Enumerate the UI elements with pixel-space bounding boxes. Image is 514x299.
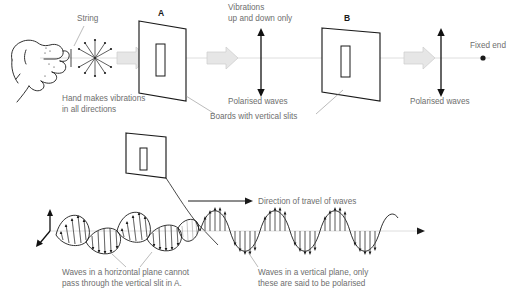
- direction-of-travel-label: Direction of travel of waves: [258, 197, 356, 206]
- fixed-end-dot-icon: [480, 55, 485, 60]
- slit-board-lower-opening: [140, 148, 147, 170]
- board-b-label: B: [344, 13, 350, 23]
- horizontal-caption-line1: Waves in a horizontal plane cannot: [62, 268, 190, 277]
- boards-caption: Boards with vertical slits: [210, 112, 297, 121]
- direction-of-travel-arrow: [188, 198, 253, 205]
- vertical-caption-leader: [248, 252, 258, 267]
- diagram-canvas: String Hand makes vibrations in all dire…: [0, 0, 514, 299]
- slit-board-b-opening: [341, 46, 350, 77]
- vertical-caption-line1: Waves in a vertical plane, only: [258, 268, 369, 277]
- double-headed-arrow-2: [437, 28, 444, 97]
- horizontal-caption-line2: pass through the vertical slit in A.: [62, 279, 182, 288]
- wave-baseline-arrowhead: [417, 228, 425, 235]
- hand-caption-line1: Hand makes vibrations: [62, 94, 145, 103]
- horizontal-caption-leader-1: [112, 254, 126, 267]
- slit-board-a: [139, 21, 186, 101]
- vibrations-line1: Vibrations: [228, 3, 264, 12]
- string-leader: [74, 26, 84, 46]
- board-a-label: A: [158, 8, 164, 18]
- hand-icon: [11, 40, 69, 102]
- hand-caption-line2: in all directions: [62, 105, 116, 114]
- slit-board-lower: [126, 133, 166, 178]
- polarised-waves-label-2: Polarised waves: [410, 97, 470, 106]
- block-arrow-icon-2: [207, 47, 238, 69]
- slit-board-b: [322, 28, 380, 101]
- polarised-waves-label-1: Polarised waves: [228, 97, 288, 106]
- three-d-axis-icon: [36, 209, 53, 247]
- block-arrow-icon-3: [404, 47, 435, 69]
- slit-board-a-opening: [156, 44, 165, 76]
- vibrations-line2: up and down only: [228, 14, 293, 23]
- vertical-caption-line2: these are said to be polarised: [258, 279, 366, 288]
- horizontal-plane-wave: [56, 212, 199, 254]
- horizontal-caption-leader-2: [140, 252, 152, 267]
- double-headed-arrow-1: [257, 28, 264, 97]
- fixed-end-label: Fixed end: [470, 41, 506, 50]
- string-label: String: [77, 14, 99, 23]
- polarisation-diagram: String Hand makes vibrations in all dire…: [0, 0, 514, 299]
